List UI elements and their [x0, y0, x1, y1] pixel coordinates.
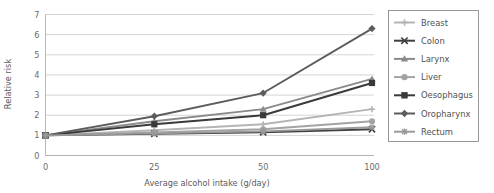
- y-tick-label: 0: [34, 151, 39, 161]
- x-tick-label: 50: [258, 162, 268, 172]
- x-axis-title: Average alcohol intake (g/day): [144, 178, 269, 188]
- legend-item-label: Liver: [421, 72, 442, 82]
- marker-asterisk: [401, 129, 407, 135]
- marker-square: [151, 121, 157, 127]
- marker-asterisk: [42, 132, 48, 138]
- y-tick-label: 5: [34, 50, 39, 60]
- marker-asterisk: [369, 124, 375, 130]
- legend-item-label: Larynx: [421, 54, 450, 64]
- x-tick-label: 25: [149, 162, 159, 172]
- y-tick-label: 1: [34, 130, 39, 140]
- marker-asterisk: [260, 128, 266, 134]
- relative-risk-line-chart: 01234567 02550100 Average alcohol intake…: [0, 0, 494, 193]
- marker-square: [260, 112, 266, 118]
- marker-square: [369, 80, 375, 86]
- marker-asterisk: [151, 130, 157, 136]
- marker-circle: [401, 74, 407, 80]
- chart-figure: 01234567 02550100 Average alcohol intake…: [0, 0, 494, 193]
- legend-item-label: Breast: [421, 18, 449, 28]
- y-tick-label: 6: [34, 30, 39, 40]
- y-tick-label: 4: [34, 70, 39, 80]
- x-tick-label: 0: [43, 162, 48, 172]
- marker-square: [401, 92, 407, 98]
- legend-item-label: Rectum: [421, 127, 453, 137]
- y-tick-label: 2: [34, 110, 39, 120]
- legend-item-label: Oropharynx: [421, 109, 470, 119]
- marker-circle: [369, 118, 375, 124]
- y-axis-title: Relative risk: [3, 59, 13, 110]
- legend-item-label: Colon: [421, 36, 445, 46]
- chart-legend: BreastColonLarynxLiverOesophagusOrophary…: [389, 11, 479, 142]
- legend-item-label: Oesophagus: [421, 90, 473, 100]
- y-tick-label: 3: [34, 90, 39, 100]
- y-tick-label: 7: [34, 10, 39, 20]
- x-tick-label: 100: [364, 162, 380, 172]
